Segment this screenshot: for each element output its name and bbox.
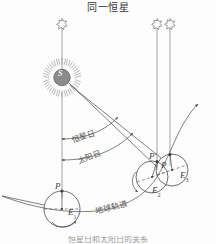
astronomy-diagram: 同一恒星 恒星日 太阳日 地球轨道 S P E1 P′ P E2 E3 恒星日和… — [0, 0, 216, 244]
star-icon-right-1 — [152, 19, 162, 30]
page-title: 同一恒星 — [0, 3, 216, 13]
label-earth-1-subscript: 1 — [74, 214, 77, 220]
orbit-tail — [2, 196, 44, 205]
figure-caption: 恒星日和太阳日的关系 — [0, 236, 216, 244]
earth-3-center — [171, 169, 173, 171]
star-icon-right-2 — [165, 19, 175, 30]
earth-1-center — [61, 208, 63, 210]
label-point-p1: P — [55, 182, 61, 191]
label-earth-3: E3 — [180, 165, 189, 183]
label-earth-3-subscript: 3 — [186, 177, 189, 183]
star-icon-left — [57, 19, 67, 30]
label-earth-1: E1 — [68, 202, 77, 220]
ray-sun-to-E3 — [70, 85, 161, 158]
label-earth-2: E2 — [152, 180, 161, 198]
label-point-p2-prime: P′ — [149, 152, 156, 161]
earth-3-point-P — [169, 153, 172, 156]
label-sun: S — [58, 70, 62, 78]
earth-2-center — [151, 176, 153, 178]
label-point-p3: P — [161, 161, 167, 170]
label-earth-2-subscript: 2 — [158, 192, 161, 198]
